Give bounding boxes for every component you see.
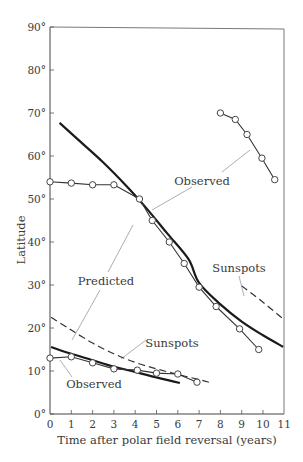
x-axis-ticks: 01234567891011 <box>47 410 291 430</box>
data-point-marker <box>47 179 53 185</box>
data-point-marker <box>89 360 95 366</box>
data-point-marker <box>111 182 117 188</box>
data-point-marker <box>136 196 142 202</box>
x-tick-label: 6 <box>174 418 181 430</box>
x-tick-label: 11 <box>278 418 291 430</box>
data-point-marker <box>232 116 238 122</box>
data-point-marker <box>272 176 278 182</box>
annotation-sunspots-upper: Sunspots <box>212 261 265 275</box>
data-point-marker <box>166 239 172 245</box>
annotation-observed-lower: Observed <box>66 377 122 391</box>
data-point-marker <box>68 180 74 186</box>
series-line-0 <box>60 123 284 347</box>
data-point-marker <box>149 217 155 223</box>
x-tick-label: 3 <box>111 418 118 430</box>
y-tick-label: 50° <box>27 193 46 205</box>
x-tick-label: 0 <box>47 418 54 430</box>
data-point-marker <box>196 284 202 290</box>
x-tick-label: 8 <box>217 418 224 430</box>
data-point-marker <box>256 346 262 352</box>
y-tick-label: 10° <box>27 365 46 377</box>
data-point-marker <box>236 326 242 332</box>
data-point-marker <box>89 182 95 188</box>
data-point-marker <box>244 131 250 137</box>
annotation-sunspots-lower: Sunspots <box>145 336 198 350</box>
data-point-marker <box>68 354 74 360</box>
y-tick-label: 90° <box>27 21 46 33</box>
data-point-marker <box>134 367 140 373</box>
data-point-marker <box>175 371 181 377</box>
series-line-2 <box>220 113 274 180</box>
y-axis-title: Latitude <box>14 215 28 264</box>
series-line-3 <box>242 286 283 318</box>
y-tick-label: 40° <box>27 236 46 248</box>
data-point-marker <box>111 366 117 372</box>
x-axis-title: Time after polar field reversal (years) <box>57 433 276 447</box>
y-tick-label: 0° <box>34 408 46 420</box>
data-point-marker <box>194 379 200 385</box>
data-point-marker <box>217 110 223 116</box>
data-point-marker <box>213 303 219 309</box>
y-tick-label: 70° <box>27 107 46 119</box>
x-tick-label: 7 <box>196 418 203 430</box>
data-point-marker <box>181 260 187 266</box>
annotation-predicted: Predicted <box>78 274 135 288</box>
x-tick-label: 1 <box>68 418 75 430</box>
y-tick-label: 60° <box>27 150 46 162</box>
plot-frame <box>50 27 284 414</box>
x-tick-label: 2 <box>89 418 96 430</box>
x-tick-label: 10 <box>256 418 269 430</box>
series-line-4 <box>51 317 212 383</box>
y-tick-label: 20° <box>27 322 46 334</box>
annotation-observed-upper: Observed <box>174 174 230 188</box>
x-tick-label: 9 <box>238 418 245 430</box>
data-point-marker <box>259 155 265 161</box>
y-tick-label: 80° <box>27 64 46 76</box>
latitude-vs-time-chart: 0°10°20°30°40°50°60°70°80°90° 0123456789… <box>0 0 303 462</box>
y-tick-label: 30° <box>27 279 46 291</box>
x-tick-label: 5 <box>153 418 160 430</box>
x-tick-label: 4 <box>132 418 139 430</box>
data-point-marker <box>47 355 53 361</box>
data-point-marker <box>153 370 159 376</box>
